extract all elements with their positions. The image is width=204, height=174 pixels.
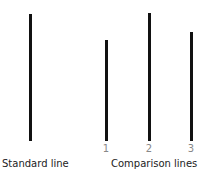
comparison-line-2	[148, 13, 151, 141]
comparison-lines-label: Comparison lines	[111, 158, 197, 169]
comparison-line-1	[105, 40, 108, 141]
comparison-line-3-number: 3	[185, 143, 197, 154]
standard-line	[29, 14, 32, 141]
comparison-line-1-number: 1	[100, 143, 112, 154]
comparison-line-3	[190, 32, 193, 141]
comparison-line-2-number: 2	[143, 143, 155, 154]
standard-line-label: Standard line	[2, 158, 69, 169]
